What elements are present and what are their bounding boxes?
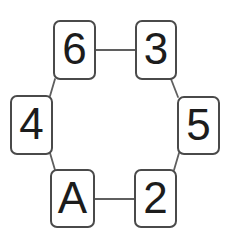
edge-4-A <box>50 153 55 170</box>
card-5-label: 5 <box>186 103 210 147</box>
card-A: A <box>50 169 95 228</box>
edge-6-4 <box>50 79 55 96</box>
card-2: 2 <box>134 169 177 228</box>
card-ring-diagram: 6 3 4 5 A 2 <box>0 0 233 240</box>
card-A-label: A <box>58 176 87 220</box>
edge-5-2 <box>174 153 179 170</box>
card-3: 3 <box>135 20 177 80</box>
card-4: 4 <box>10 95 53 155</box>
card-3-label: 3 <box>144 27 168 71</box>
card-5: 5 <box>177 96 220 155</box>
card-6-label: 6 <box>62 27 86 71</box>
card-6: 6 <box>53 20 96 80</box>
card-2-label: 2 <box>143 176 167 220</box>
card-4-label: 4 <box>19 102 43 146</box>
edge-3-5 <box>171 79 178 97</box>
